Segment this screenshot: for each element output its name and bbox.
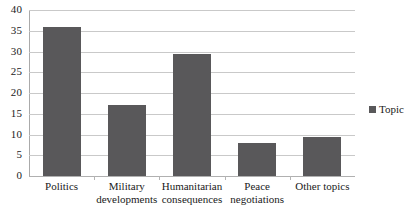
x-axis-label: Militarydevelopments [94, 180, 159, 206]
bar-chart: 4035302520151050 PoliticsMilitarydevelop… [0, 0, 412, 212]
bars-layer [29, 10, 355, 176]
y-axis-tick-label: 10 [11, 129, 22, 140]
legend-label-topic: Topic [379, 104, 404, 115]
y-axis-tick-label: 35 [11, 25, 22, 36]
x-axis-tick [290, 176, 291, 180]
chart-legend: Topic [369, 104, 404, 115]
bar-slot [29, 10, 94, 176]
x-axis-label: Peacenegotiations [225, 180, 290, 206]
bar-slot [225, 10, 290, 176]
x-axis-label: Humanitarianconsequences [159, 180, 224, 206]
bar-slot [159, 10, 224, 176]
legend-swatch-topic [369, 106, 376, 113]
x-axis-tick [94, 176, 95, 180]
bar-humanitarian-consequences [173, 54, 211, 176]
y-axis-labels: 4035302520151050 [0, 0, 27, 186]
bar-peace-negotiations [238, 143, 276, 176]
bar-slot [290, 10, 355, 176]
y-axis-tick-label: 30 [11, 46, 22, 57]
gridline-0 [29, 176, 355, 177]
y-axis-tick-label: 5 [16, 149, 22, 160]
bar-politics [43, 27, 81, 176]
x-axis-tick [225, 176, 226, 180]
x-axis-tick [159, 176, 160, 180]
y-axis-tick-label: 15 [11, 108, 22, 119]
bar-slot [94, 10, 159, 176]
y-axis-tick-label: 40 [11, 4, 22, 15]
x-axis-label: Politics [29, 180, 94, 193]
bar-military-developments [108, 105, 146, 176]
y-axis-tick-label: 0 [16, 170, 22, 181]
x-axis-labels: PoliticsMilitarydevelopmentsHumanitarian… [29, 180, 355, 212]
bar-other-topics [303, 137, 341, 176]
y-axis-tick-label: 20 [11, 87, 22, 98]
y-axis-tick-label: 25 [11, 66, 22, 77]
x-axis-label: Other topics [290, 180, 355, 193]
